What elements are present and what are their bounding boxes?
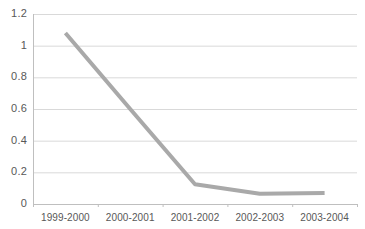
- data-line-1: [65, 33, 324, 194]
- data-series-group: [65, 33, 324, 194]
- gridlines-group: [33, 15, 357, 173]
- chart-container: 00.20.40.60.811.2 1999-20002000-20012001…: [0, 0, 365, 229]
- chart-plot-svg: [0, 0, 365, 229]
